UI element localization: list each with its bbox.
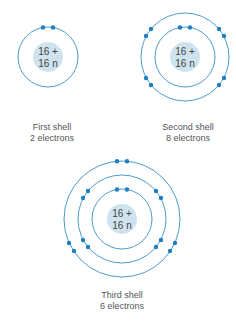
electron	[86, 245, 90, 249]
electron	[217, 83, 221, 87]
caption-second-shell: Second shell 8 electrons	[138, 122, 236, 144]
electron	[81, 238, 85, 242]
caption-count: 6 electrons	[72, 301, 172, 312]
electron	[159, 238, 163, 242]
caption-title: First shell	[2, 122, 102, 133]
electron	[115, 187, 119, 191]
electron	[86, 189, 90, 193]
caption-title: Second shell	[138, 122, 236, 133]
electron	[144, 76, 148, 80]
electron	[168, 249, 172, 253]
nucleus-neutrons: 16 n	[112, 220, 131, 231]
caption-count: 8 electrons	[138, 133, 236, 144]
electron	[125, 187, 129, 191]
electron	[81, 196, 85, 200]
electron	[149, 27, 153, 31]
electron	[222, 76, 226, 80]
electron	[41, 25, 45, 29]
caption-title: Third shell	[72, 290, 172, 301]
electron	[144, 34, 148, 38]
electron	[173, 241, 177, 245]
electron	[217, 27, 221, 31]
electron	[154, 245, 158, 249]
caption-count: 2 electrons	[2, 133, 102, 144]
atom-first-shell: 16 + 16 n	[18, 25, 78, 87]
electron	[154, 189, 158, 193]
electron	[72, 249, 76, 253]
nucleus-protons: 16 +	[175, 46, 195, 57]
nucleus-neutrons: 16 n	[175, 58, 194, 69]
electron	[67, 241, 71, 245]
electron	[51, 25, 55, 29]
electron	[125, 159, 129, 163]
electron	[178, 25, 182, 29]
electron	[222, 34, 226, 38]
atom-diagram: 16 + 16 n 16 + 16 n	[0, 0, 236, 325]
atom-third-shell: 16 + 16 n	[64, 159, 180, 277]
electron	[115, 159, 119, 163]
caption-third-shell: Third shell 6 electrons	[72, 290, 172, 312]
caption-first-shell: First shell 2 electrons	[2, 122, 102, 144]
electron	[159, 196, 163, 200]
nucleus-protons: 16 +	[112, 208, 132, 219]
atom-second-shell: 16 + 16 n	[141, 13, 229, 101]
electron	[188, 25, 192, 29]
nucleus-protons: 16 +	[38, 46, 58, 57]
nucleus-neutrons: 16 n	[38, 58, 57, 69]
electron	[149, 83, 153, 87]
